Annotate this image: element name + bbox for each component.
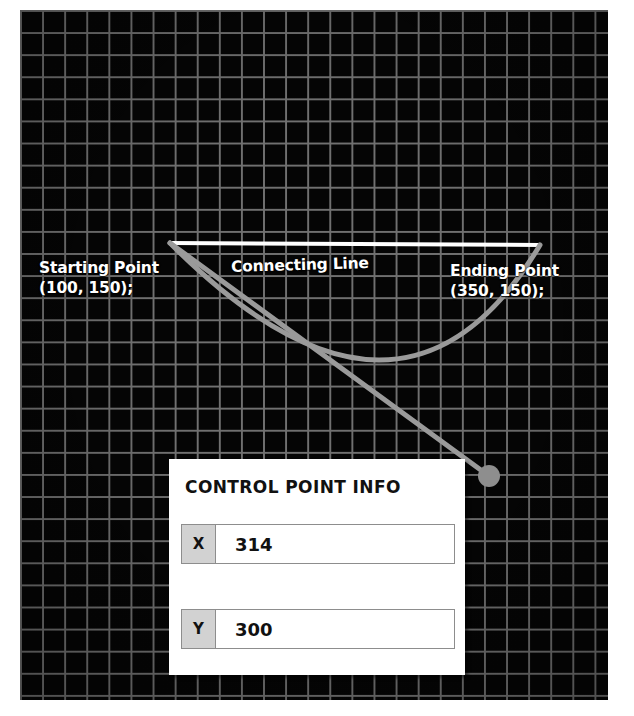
field-row-y[interactable]: Y 300: [181, 609, 455, 649]
connecting-line-label: Connecting Line: [231, 254, 369, 278]
ending-point-label: Ending Point (350, 150);: [450, 262, 559, 302]
control-point-info-panel: CONTROL POINT INFO X 314 Y 300: [169, 459, 465, 675]
panel-title: CONTROL POINT INFO: [185, 477, 401, 497]
x-input[interactable]: 314: [216, 525, 454, 563]
field-label-y: Y: [182, 610, 216, 648]
field-label-x: X: [182, 525, 216, 563]
starting-point-label: Starting Point (100, 150);: [39, 259, 159, 299]
field-row-x[interactable]: X 314: [181, 524, 455, 564]
bezier-editor-screenshot: Starting Point (100, 150); Connecting Li…: [0, 0, 634, 716]
y-input[interactable]: 300: [216, 610, 454, 648]
